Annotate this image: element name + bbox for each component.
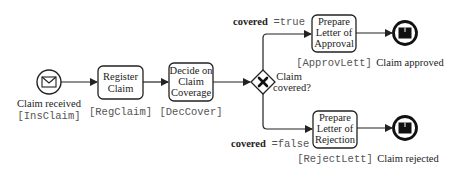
flow-gateway-to-rejection (263, 94, 312, 129)
exclusive-gateway[interactable] (251, 70, 275, 94)
end-event-approved[interactable] (394, 22, 417, 45)
task-prepare-approval[interactable]: Prepare Letter of Approval (312, 15, 356, 52)
task-label-line: Prepare (318, 16, 350, 27)
task-label-line: Letter of (317, 123, 354, 134)
task-register-claim[interactable]: Register Claim (98, 66, 143, 99)
task-code: [DecCover] (159, 106, 222, 118)
task-decide-coverage[interactable]: Decide on Claim Coverage (169, 63, 213, 101)
condition-true-label: covered =true (233, 16, 305, 28)
bpmn-diagram: Claim received [InsClaim] Register Claim… (0, 0, 457, 172)
task-label-line: Register (103, 71, 138, 82)
task-code: [RejectLett] (297, 153, 373, 165)
gateway-label-line: Claim (276, 71, 302, 82)
task-label-line: Coverage (171, 87, 212, 98)
task-label-line: Claim (108, 83, 134, 94)
task-label-line: Approval (314, 38, 354, 49)
condition-value: =false (271, 138, 309, 150)
task-code: [RegClaim] (89, 106, 152, 118)
condition-var: covered (231, 138, 266, 149)
end-event-label: Claim approved (376, 57, 444, 68)
start-event-label: Claim received (17, 98, 82, 109)
start-event-code: [InsClaim] (17, 110, 80, 122)
message-end-icon (399, 123, 412, 134)
condition-var: covered (233, 16, 268, 27)
task-label-line: Decide on (170, 65, 214, 76)
end-event-rejected[interactable] (394, 117, 417, 140)
task-label-line: Prepare (319, 112, 351, 123)
end-event-label: Claim rejected (377, 153, 439, 164)
task-code: [ApprovLett] (296, 57, 372, 69)
task-label-line: Rejection (315, 134, 356, 145)
message-end-icon (399, 28, 412, 39)
condition-value: =true (273, 16, 305, 28)
task-label-line: Letter of (316, 27, 353, 38)
gateway-label-line: covered? (273, 82, 311, 93)
task-prepare-rejection[interactable]: Prepare Letter of Rejection (313, 111, 357, 148)
task-label-line: Claim (178, 76, 204, 87)
start-event[interactable] (37, 70, 61, 94)
condition-false-label: covered =false (231, 138, 309, 150)
